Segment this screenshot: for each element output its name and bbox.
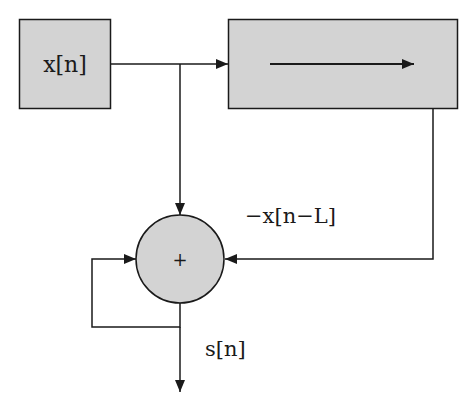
delayed-input-label: −x[n−L] bbox=[245, 204, 336, 228]
input-block: x[n] bbox=[20, 20, 111, 109]
plus-icon: + bbox=[172, 249, 187, 270]
input-label: x[n] bbox=[43, 52, 87, 77]
output-label: s[n] bbox=[205, 337, 246, 361]
adder-node: + bbox=[136, 215, 224, 303]
delay-to-adder-arrow bbox=[225, 109, 433, 259]
block-diagram: x[n] + −x[n−L] s[n] bbox=[0, 0, 476, 412]
delay-block bbox=[229, 20, 458, 109]
